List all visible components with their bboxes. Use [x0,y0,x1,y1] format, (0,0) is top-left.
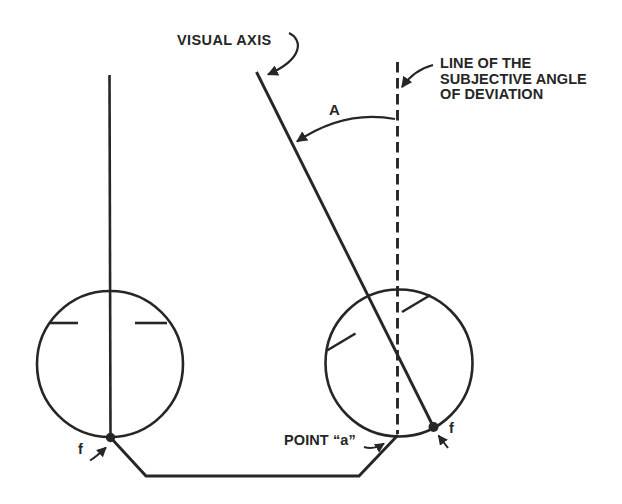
point-a-pointer-arrow [364,444,384,448]
point-a-label: POINT “a” [284,433,356,449]
angle-arc-arrow [297,117,395,142]
right-eye-retina-tick-upper [402,295,431,312]
visual-axis-line [257,72,435,428]
right-fovea-label: f [449,421,454,437]
diagram-canvas: VISUAL AXIS LINE OF THE SUBJECTIVE ANGLE… [0,0,622,504]
visual-axis-pointer-arrow [268,33,298,75]
right-fovea-dot [429,422,439,432]
angle-a-label: A [329,102,340,118]
subjective-angle-label: LINE OF THE SUBJECTIVE ANGLE OF DEVIATIO… [440,56,587,103]
right-fovea-pointer-arrow [439,436,449,449]
left-fovea-pointer-arrow [90,448,106,461]
left-fovea-dot [106,433,115,442]
left-fovea-label: f [78,442,83,458]
right-eye-circle [326,290,473,437]
visual-axis-label: VISUAL AXIS [177,33,272,49]
subjective-line-pointer-arrow [402,65,433,87]
left-eye-axis-line [110,75,111,436]
